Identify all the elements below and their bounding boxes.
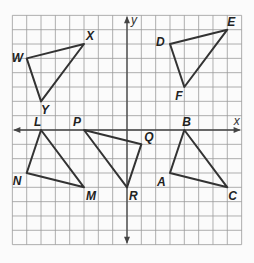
y-axis-label: y: [130, 13, 138, 27]
coordinate-grid: xy WXYDEFLMNPQRABC: [0, 0, 254, 263]
vertex-label-c: C: [228, 189, 237, 203]
vertex-label-a: A: [156, 175, 166, 189]
vertex-label-w: W: [12, 51, 25, 65]
vertex-label-d: D: [156, 35, 165, 49]
vertex-label-f: F: [175, 89, 183, 103]
x-axis-arrow-left-icon: [13, 127, 20, 133]
x-axis-label: x: [233, 114, 241, 128]
y-axis-arrow-down-icon: [124, 237, 130, 244]
y-axis-arrow-up-icon: [124, 16, 130, 23]
vertex-label-r: R: [129, 189, 138, 203]
vertex-label-y: Y: [41, 103, 50, 117]
vertex-label-l: L: [34, 115, 41, 129]
vertex-label-e: E: [227, 15, 236, 29]
vertex-label-q: Q: [144, 130, 154, 144]
vertex-label-x: X: [85, 29, 95, 43]
vertex-labels: WXYDEFLMNPQRABC: [12, 15, 238, 204]
vertex-label-b: B: [182, 115, 191, 129]
vertex-label-m: M: [86, 189, 97, 203]
axes: xy: [13, 13, 240, 243]
vertex-label-n: N: [13, 174, 22, 188]
vertex-label-p: P: [73, 115, 82, 129]
